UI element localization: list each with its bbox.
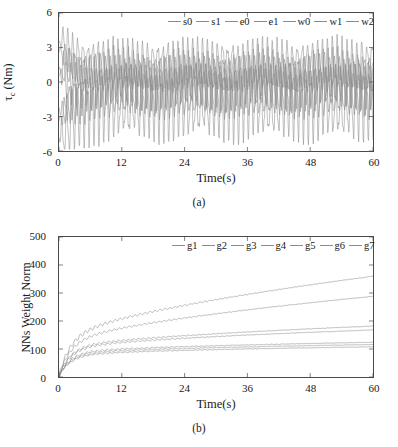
legend-swatch <box>196 21 209 22</box>
legend-item: g3 <box>231 240 257 251</box>
legend-item: e1 <box>254 16 279 27</box>
series-line <box>59 276 373 377</box>
x-tick-label: 0 <box>55 383 61 394</box>
series-line <box>59 330 373 377</box>
legend-label: s0 <box>183 16 192 27</box>
legend-swatch <box>254 21 267 22</box>
legend-label: e1 <box>269 16 279 27</box>
legend-swatch <box>168 21 181 22</box>
legend-item: s1 <box>196 16 220 27</box>
panel-a-caption: (a) <box>0 196 398 208</box>
x-tick-label: 60 <box>369 157 380 168</box>
x-tick-label: 36 <box>242 157 253 168</box>
y-axis-label-a-symbol: τ <box>1 96 15 101</box>
legend-b: g1g2g3g4g5g6g7 <box>172 240 375 251</box>
legend-label: w2 <box>361 16 374 27</box>
legend-a: s0s1e0e1w0w1w2 <box>168 16 374 27</box>
x-axis-label-a: Time(s) <box>58 171 374 186</box>
legend-item: g5 <box>290 240 316 251</box>
legend-item: w2 <box>346 16 374 27</box>
legend-label: g5 <box>305 240 316 251</box>
legend-swatch <box>349 245 362 246</box>
legend-swatch <box>172 245 185 246</box>
x-tick-label: 48 <box>305 157 316 168</box>
legend-item: g4 <box>261 240 287 251</box>
legend-item: w1 <box>314 16 342 27</box>
legend-label: g7 <box>364 240 375 251</box>
legend-item: g7 <box>349 240 375 251</box>
legend-item: g2 <box>202 240 228 251</box>
y-axis-label-b: NNs Weight Norm <box>19 223 34 393</box>
chart-panel-b: 0100200300400500 01224364860 NNs Weight … <box>0 222 398 447</box>
x-axis-label-b: Time(s) <box>58 397 374 412</box>
y-tick-label: 6 <box>47 7 53 18</box>
legend-swatch <box>225 21 238 22</box>
legend-label: s1 <box>211 16 220 27</box>
y-tick-label: -3 <box>43 112 52 123</box>
plot-lines-b <box>59 237 373 377</box>
legend-swatch <box>314 21 327 22</box>
y-tick-label: 3 <box>47 42 53 53</box>
plot-area-b <box>58 236 374 378</box>
legend-swatch <box>346 21 359 22</box>
x-tick-label: 12 <box>116 157 127 168</box>
x-tick-label: 48 <box>305 383 316 394</box>
x-tick-label: 12 <box>116 383 127 394</box>
plot-area-a <box>58 12 374 152</box>
legend-item: g1 <box>172 240 198 251</box>
legend-label: e0 <box>240 16 250 27</box>
legend-item: w0 <box>283 16 311 27</box>
legend-label: g2 <box>217 240 228 251</box>
legend-swatch <box>261 245 274 246</box>
x-tick-label: 36 <box>242 383 253 394</box>
y-axis-label-a: τc (Nm) <box>1 52 17 112</box>
legend-item: e0 <box>225 16 250 27</box>
x-axis-ticks-a: 01224364860 <box>58 155 374 169</box>
legend-swatch <box>290 245 303 246</box>
panel-b-caption: (b) <box>0 422 398 434</box>
legend-label: w1 <box>329 16 342 27</box>
y-tick-label: 0 <box>41 373 47 384</box>
y-axis-label-a-unit: (Nm) <box>1 63 15 92</box>
y-axis-label-a-subscript: c <box>7 92 17 96</box>
legend-swatch <box>320 245 333 246</box>
chart-panel-a: -6-3036 01224364860 τc (Nm) Time(s) s0s1… <box>0 0 398 222</box>
figure-container: -6-3036 01224364860 τc (Nm) Time(s) s0s1… <box>0 0 398 447</box>
y-tick-label: -6 <box>43 147 52 158</box>
x-tick-label: 24 <box>179 383 190 394</box>
y-axis-ticks-a: -6-3036 <box>22 12 52 152</box>
x-tick-label: 0 <box>55 157 61 168</box>
legend-swatch <box>283 21 296 22</box>
legend-label: w0 <box>298 16 311 27</box>
legend-label: g1 <box>187 240 198 251</box>
legend-swatch <box>202 245 215 246</box>
legend-item: s0 <box>168 16 192 27</box>
x-axis-ticks-b: 01224364860 <box>58 381 374 395</box>
legend-swatch <box>231 245 244 246</box>
x-tick-label: 24 <box>179 157 190 168</box>
legend-label: g6 <box>335 240 346 251</box>
legend-label: g4 <box>276 240 287 251</box>
plot-lines-a <box>59 13 373 151</box>
legend-item: g6 <box>320 240 346 251</box>
x-tick-label: 60 <box>369 383 380 394</box>
y-tick-label: 0 <box>47 77 53 88</box>
legend-label: g3 <box>246 240 257 251</box>
series-line <box>59 296 373 376</box>
